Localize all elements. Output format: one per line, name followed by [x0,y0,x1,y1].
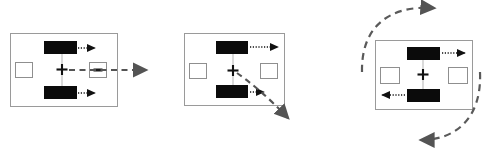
lower-bar [216,85,248,98]
panel-translation [0,0,164,151]
lower-bar [407,89,440,102]
left-slot [16,63,33,78]
left-slot [190,64,207,79]
panel-rotation [328,0,492,151]
upper-bar [407,47,440,60]
right-slot [261,64,278,79]
panel-curved-translation [164,0,328,151]
figure-root [0,0,492,151]
right-slot [449,68,468,84]
upper-bar [216,41,248,54]
upper-bar [44,41,77,54]
lower-bar [44,86,77,99]
left-slot [381,68,400,84]
